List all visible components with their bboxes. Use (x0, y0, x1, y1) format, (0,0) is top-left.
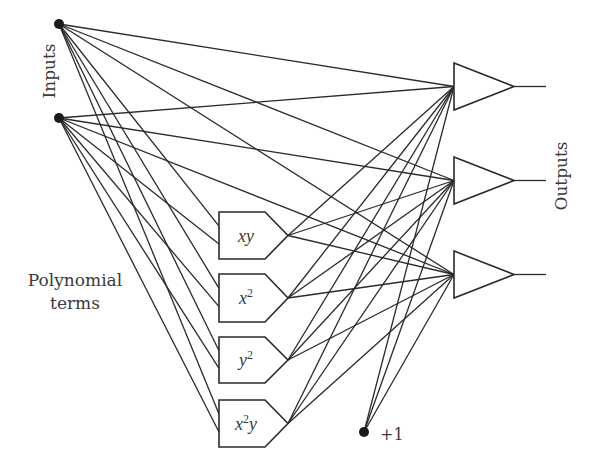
output-units (454, 63, 546, 298)
poly-to-output-line (288, 181, 454, 299)
poly-box-shape (219, 337, 288, 383)
input-to-poly-line (59, 118, 219, 244)
input-to-output-line (59, 118, 454, 181)
bias-to-output-line (364, 181, 454, 433)
poly-term-x2y: x2y (219, 400, 288, 447)
bias-node (359, 427, 369, 437)
poly-term-y2: y2 (219, 337, 288, 383)
poly-to-output-line (288, 275, 454, 424)
polynomial-terms-label-line2: terms (50, 293, 100, 313)
input-to-poly-line (59, 24, 219, 414)
bias-label: +1 (380, 425, 404, 444)
poly-term-x2: x2 (219, 274, 288, 322)
poly-term-label: xy (237, 226, 254, 246)
output-unit-out3 (454, 251, 546, 298)
input-node-x (54, 19, 64, 29)
poly-to-output-line (288, 87, 454, 236)
input-to-output-line (59, 24, 454, 87)
input-node-y (54, 113, 64, 123)
output-triangle (454, 251, 514, 298)
inputs-label: Inputs (39, 43, 59, 98)
poly-to-output-line (288, 275, 454, 299)
output-triangle (454, 157, 514, 204)
bias-to-output-line (364, 87, 454, 433)
poly-to-output-line (288, 87, 454, 424)
outputs-label: Outputs (551, 141, 571, 210)
polynomial-term-boxes: xyx2y2x2y (219, 212, 288, 447)
input-to-poly-line (59, 24, 219, 226)
output-triangle (454, 63, 514, 110)
output-unit-out2 (454, 157, 546, 204)
poly-box-shape (219, 274, 288, 322)
input-to-output-line (59, 87, 454, 119)
poly-to-output-line (288, 87, 454, 299)
poly-term-xy: xy (219, 212, 288, 259)
poly-to-output-line (288, 181, 454, 424)
output-unit-out1 (454, 63, 546, 110)
polynomial-terms-label-line1: Polynomial (28, 270, 122, 290)
network-diagram: xyx2y2x2y Inputs Outputs Polynomial term… (0, 0, 598, 471)
